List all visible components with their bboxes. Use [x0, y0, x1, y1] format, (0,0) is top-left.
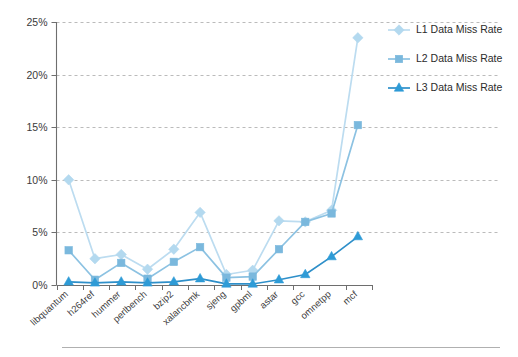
data-point-marker	[90, 254, 100, 264]
data-point-marker	[301, 269, 310, 277]
y-axis-tick-label: 5%	[32, 226, 47, 238]
x-axis-tick-label: gcc	[288, 288, 307, 306]
data-point-marker	[64, 277, 73, 285]
legend-label: L3 Data Miss Rate	[416, 81, 503, 93]
series-1	[63, 33, 363, 280]
line-chart: 0%5%10%15%20%25% libquantumh264refhummer…	[0, 0, 518, 357]
data-point-marker	[274, 216, 284, 226]
data-point-marker	[116, 249, 126, 259]
x-axis-tick-label: gpbml	[227, 288, 254, 313]
data-point-marker	[353, 231, 362, 239]
series-2	[65, 121, 362, 283]
chart-legend: L1 Data Miss RateL2 Data Miss RateL3 Dat…	[388, 23, 503, 93]
data-point-marker	[275, 246, 282, 253]
y-axis-tick-label: 20%	[26, 69, 47, 81]
y-axis-tick-label: 25%	[26, 16, 47, 28]
legend-item-1[interactable]: L1 Data Miss Rate	[388, 23, 503, 35]
y-axis-ticks	[52, 23, 57, 286]
data-point-marker	[354, 121, 361, 128]
x-axis-tick-label: libquantum	[28, 288, 70, 327]
y-axis-tick-label: 15%	[26, 121, 47, 133]
legend-marker-diamond-icon	[394, 25, 404, 35]
legend-item-2[interactable]: L2 Data Miss Rate	[388, 52, 503, 64]
data-point-marker	[302, 218, 309, 225]
data-point-marker	[170, 258, 177, 265]
data-series-layer	[63, 33, 363, 288]
data-point-marker	[118, 259, 125, 266]
legend-label: L1 Data Miss Rate	[416, 23, 503, 35]
legend-item-3[interactable]: L3 Data Miss Rate	[388, 81, 503, 93]
y-axis-tick-label: 0%	[32, 279, 47, 291]
x-axis-tick-label: astar	[257, 288, 280, 310]
legend-marker-triangle-icon	[394, 83, 403, 91]
data-point-marker	[117, 277, 126, 285]
y-axis-tick-label: 10%	[26, 174, 47, 186]
data-point-marker	[353, 33, 363, 43]
chart-container: 0%5%10%15%20%25% libquantumh264refhummer…	[0, 0, 518, 357]
data-point-marker	[196, 243, 203, 250]
x-axis-tick-label: sjeng	[203, 288, 227, 311]
x-axis-tick-label: mcf	[340, 288, 359, 307]
data-point-marker	[328, 210, 335, 217]
legend-marker-square-icon	[395, 55, 402, 62]
y-axis-labels: 0%5%10%15%20%25%	[26, 16, 47, 291]
data-point-marker	[65, 247, 72, 254]
data-point-marker	[63, 175, 73, 185]
x-axis-tick-labels: libquantumh264refhummerperlbenchbzip2xal…	[28, 288, 359, 328]
data-point-marker	[195, 273, 204, 281]
legend-label: L2 Data Miss Rate	[416, 52, 503, 64]
data-point-marker	[327, 251, 336, 259]
series-3	[64, 231, 363, 287]
